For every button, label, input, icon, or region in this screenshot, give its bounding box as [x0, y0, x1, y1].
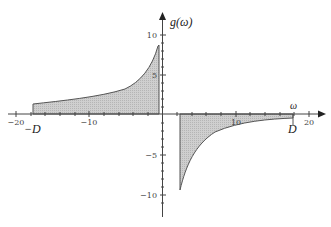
y-axis-arrow-icon: [159, 12, 166, 20]
y-tick-label: 10: [147, 31, 157, 40]
x-tick-label: −10: [81, 118, 98, 127]
left-shaded-area: [33, 45, 159, 114]
x-axis-arrow-icon: [318, 111, 326, 118]
x-axis-label: ω: [290, 100, 297, 111]
y-tick-label: −10: [140, 191, 157, 200]
x-tick-label: −20: [8, 118, 25, 127]
y-tick-label: 5: [152, 71, 157, 80]
x-tick-label: 10: [231, 118, 241, 127]
y-axis-label: g(ω): [170, 15, 192, 29]
minus-d-label: −D: [24, 122, 41, 136]
y-tick-label: −5: [145, 151, 157, 160]
d-label: D: [287, 122, 297, 136]
x-tick-label: 20: [304, 118, 314, 127]
chart: −20 −10 10 20 10 5 −5 −10 g(ω) ω −D D: [0, 0, 331, 227]
